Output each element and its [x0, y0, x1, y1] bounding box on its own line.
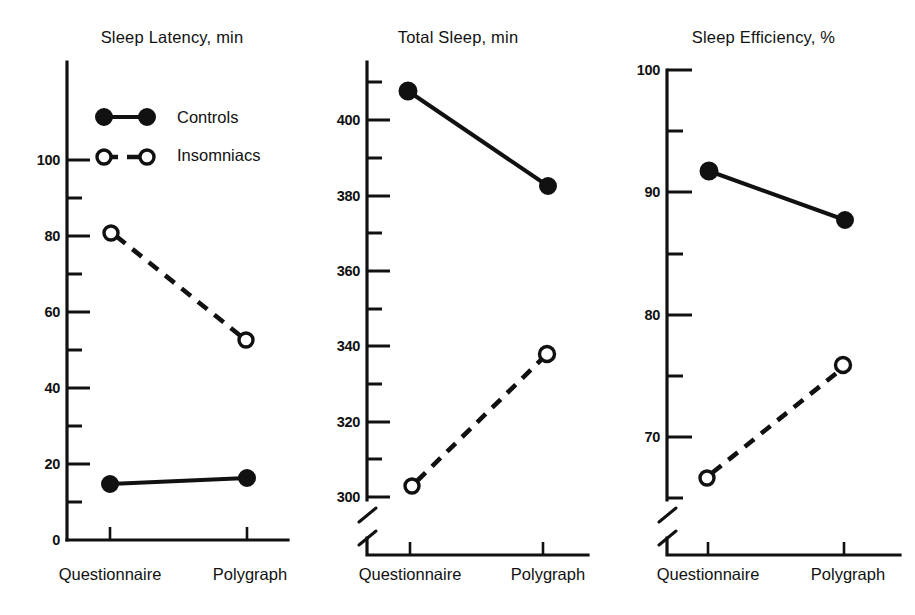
datapoint-insomniacs-questionnaire	[700, 471, 714, 485]
panel-sleep-efficiency: Sleep Efficiency, %	[600, 0, 915, 615]
legend-label-insomniacs: Insomniacs	[177, 146, 260, 165]
datapoint-controls-questionnaire	[400, 83, 417, 100]
xaxis-label-questionnaire: Questionnaire	[657, 565, 760, 584]
xaxis-label-polygraph: Polygraph	[213, 565, 287, 584]
ytick-label-100: 100	[606, 62, 660, 78]
x-axis-line	[667, 538, 900, 555]
datapoint-insomniacs-polygraph	[836, 358, 851, 373]
ytick-label-380: 380	[308, 188, 360, 204]
ytick-label-90: 90	[606, 184, 660, 200]
series-line-insomniacs	[116, 236, 242, 337]
ytick-label-400: 400	[308, 112, 360, 128]
legend-swatch-insomniacs	[95, 145, 165, 165]
datapoint-controls-polygraph	[540, 178, 556, 194]
legend: Controls Insomniacs	[95, 103, 260, 179]
legend-swatch-controls	[95, 107, 165, 127]
xaxis-label-polygraph: Polygraph	[811, 565, 885, 584]
datapoint-insomniacs-polygraph	[540, 347, 555, 362]
figure-root: Sleep Latency, min	[0, 0, 915, 615]
datapoint-insomniacs-questionnaire	[405, 479, 419, 493]
legend-item-insomniacs: Insomniacs	[95, 141, 260, 169]
series-line-controls	[709, 171, 845, 220]
datapoint-insomniacs-questionnaire	[104, 226, 118, 240]
ytick-label-60: 60	[14, 304, 60, 320]
ytick-label-40: 40	[14, 380, 60, 396]
ytick-label-300: 300	[308, 489, 360, 505]
legend-label-controls: Controls	[177, 108, 238, 127]
xaxis-label-questionnaire: Questionnaire	[59, 565, 162, 584]
plot-area-total-sleep	[300, 0, 600, 615]
ytick-label-320: 320	[308, 414, 360, 430]
ytick-label-100: 100	[14, 152, 60, 168]
datapoint-controls-polygraph	[239, 470, 255, 486]
ytick-label-80: 80	[14, 228, 60, 244]
ytick-label-80: 80	[606, 307, 660, 323]
legend-item-controls: Controls	[95, 103, 260, 131]
xaxis-label-questionnaire: Questionnaire	[359, 565, 462, 584]
datapoint-insomniacs-polygraph	[239, 333, 253, 347]
datapoint-controls-questionnaire	[701, 163, 718, 180]
panel-sleep-latency: Sleep Latency, min	[0, 0, 300, 615]
series-line-controls	[110, 478, 247, 484]
series-line-insomniacs	[417, 359, 542, 481]
panel-total-sleep: Total Sleep, min	[300, 0, 600, 615]
datapoint-controls-questionnaire	[102, 476, 118, 492]
xaxis-label-polygraph: Polygraph	[511, 565, 585, 584]
ytick-label-70: 70	[606, 429, 660, 445]
ytick-label-0: 0	[14, 532, 60, 548]
series-line-controls	[408, 91, 548, 186]
x-axis-line	[367, 538, 588, 555]
ytick-label-360: 360	[308, 263, 360, 279]
series-line-insomniacs	[712, 371, 839, 473]
datapoint-controls-polygraph	[837, 212, 853, 228]
ytick-label-20: 20	[14, 456, 60, 472]
ytick-label-340: 340	[308, 338, 360, 354]
